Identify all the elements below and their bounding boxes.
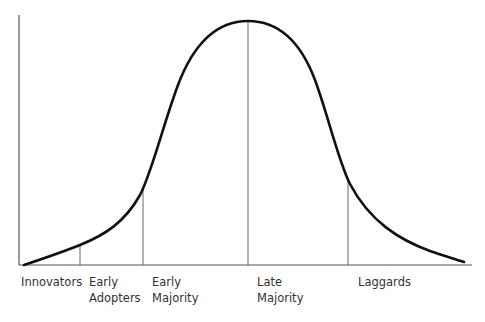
label-early-adopters: Early Adopters (89, 274, 141, 306)
label-line: Innovators (21, 274, 82, 290)
label-laggards: Laggards (358, 274, 411, 290)
label-line: Early (152, 274, 198, 290)
label-line: Majority (152, 290, 198, 306)
label-line: Adopters (89, 290, 141, 306)
label-line: Late (257, 274, 303, 290)
label-late-majority: Late Majority (257, 274, 303, 306)
label-line: Early (89, 274, 141, 290)
label-line: Majority (257, 290, 303, 306)
label-innovators: Innovators (21, 274, 82, 290)
label-early-majority: Early Majority (152, 274, 198, 306)
bell-curve (24, 21, 464, 265)
label-line: Laggards (358, 274, 411, 290)
